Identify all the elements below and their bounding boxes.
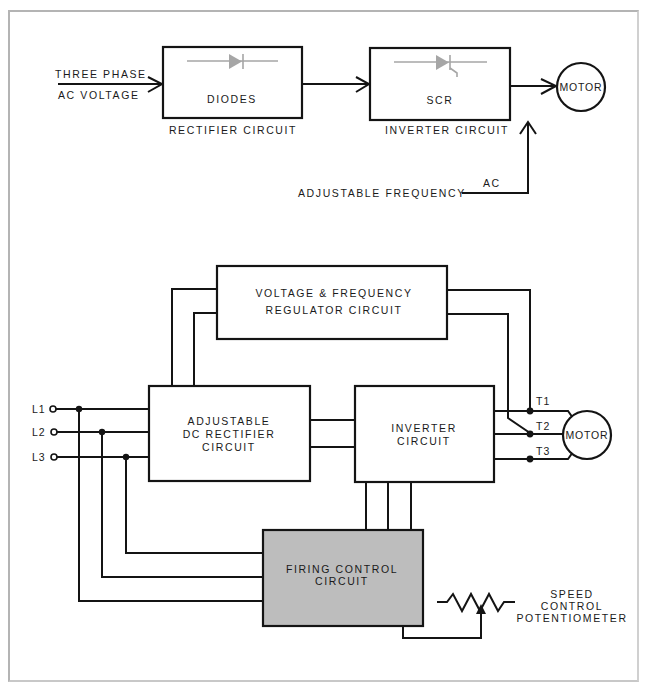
dc-rectifier-label-line2: DC RECTIFIER <box>183 428 276 440</box>
output-label-suffix: AC <box>483 177 501 189</box>
motor-label: MOTOR <box>560 81 603 93</box>
regulator-box <box>217 266 447 339</box>
regulator-to-rectifier-wire-2 <box>194 313 217 386</box>
dc-rectifier-label-line3: CIRCUIT <box>202 441 256 453</box>
inverter-label-line2: CIRCUIT <box>397 435 451 447</box>
motor-label: MOTOR <box>566 429 609 441</box>
terminal-t2-label: T2 <box>536 420 550 432</box>
bottom-block-diagram: VOLTAGE & FREQUENCY REGULATOR CIRCUIT AD… <box>32 266 628 638</box>
terminal-t3-label: T3 <box>536 445 550 457</box>
top-block-diagram: THREE PHASE AC VOLTAGE DIODES RECTIFIER … <box>55 47 605 199</box>
terminal-l2-icon <box>51 429 57 435</box>
t1-wire <box>494 411 573 418</box>
junction-t3-icon <box>527 456 534 463</box>
terminal-t1-label: T1 <box>536 395 550 407</box>
junction-t2-icon <box>527 431 534 438</box>
output-label-prefix: ADJUSTABLE FREQUENCY <box>298 187 466 199</box>
junction-t1-icon <box>527 408 534 415</box>
inverter-caption: INVERTER CIRCUIT <box>385 124 509 136</box>
input-l2-label: L2 <box>32 426 46 438</box>
diagram-canvas: THREE PHASE AC VOLTAGE DIODES RECTIFIER … <box>0 0 649 687</box>
input-l1-label: L1 <box>32 403 46 415</box>
rectifier-caption: RECTIFIER CIRCUIT <box>169 124 297 136</box>
inverter-circuit-box <box>355 386 494 482</box>
regulator-label-line2: REGULATOR CIRCUIT <box>265 304 402 316</box>
dc-rectifier-label-line1: ADJUSTABLE <box>188 415 271 427</box>
input-label-line2: AC VOLTAGE <box>58 89 140 101</box>
input-label-line1: THREE PHASE <box>55 68 147 80</box>
firing-label-line2: CIRCUIT <box>315 575 369 587</box>
firing-label-line1: FIRING CONTROL <box>286 563 398 575</box>
terminal-l3-icon <box>51 454 57 460</box>
inverter-box-label: SCR <box>427 94 454 106</box>
inverter-label-line1: INVERTER <box>391 422 457 434</box>
terminal-l1-icon <box>50 406 56 412</box>
regulator-label-line1: VOLTAGE & FREQUENCY <box>255 287 412 299</box>
potentiometer-label-line2: CONTROL <box>541 600 604 612</box>
potentiometer-label-line3: POTENTIOMETER <box>516 612 627 624</box>
rectifier-box-label: DIODES <box>207 93 257 105</box>
input-l3-label: L3 <box>32 451 46 463</box>
potentiometer-label-line1: SPEED <box>550 588 594 600</box>
t3-wire <box>494 452 573 459</box>
